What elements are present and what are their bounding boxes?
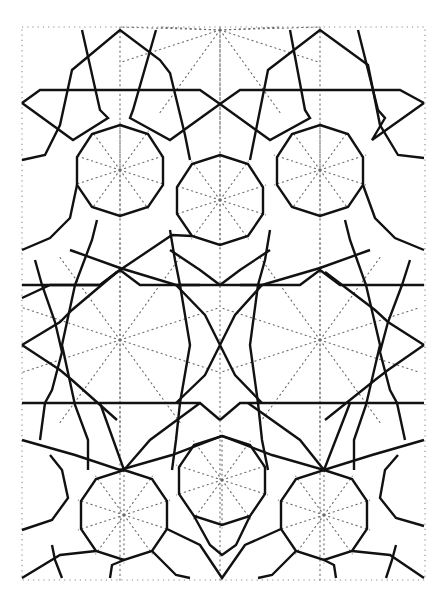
- mid-strand-vert-2: [170, 230, 190, 470]
- construction-ray: [74, 170, 120, 185]
- bottom-legs-2: [110, 560, 124, 578]
- construction-ray: [124, 515, 152, 554]
- construction-ray: [220, 185, 266, 200]
- mid-right-strand-1: [363, 185, 424, 250]
- construction-ray: [324, 500, 370, 515]
- construction-ray: [220, 30, 282, 115]
- mid-band: [22, 270, 200, 285]
- mid-left-strand-1: [22, 185, 77, 250]
- top-band-left: [22, 90, 220, 104]
- construction-lines: [22, 27, 420, 580]
- construction-ray: [220, 340, 320, 372]
- construction-ray: [320, 255, 382, 340]
- top-band-right: [220, 90, 424, 104]
- bottom-legs-4: [386, 545, 396, 578]
- construction-ray: [320, 308, 420, 340]
- construction-ray: [176, 465, 222, 480]
- construction-ray: [92, 131, 120, 170]
- construction-ray: [120, 170, 148, 209]
- top-arch-right: [250, 30, 424, 160]
- construction-ray: [258, 255, 320, 340]
- construction-ray: [78, 515, 124, 530]
- construction-ray: [120, 340, 182, 425]
- construction-ray: [192, 200, 220, 239]
- construction-ray: [220, 200, 248, 239]
- construction-ray: [278, 500, 324, 515]
- top-arch-left: [22, 30, 190, 160]
- construction-ray: [278, 515, 324, 530]
- construction-ray: [222, 441, 250, 480]
- construction-ray: [192, 161, 220, 200]
- construction-ray: [222, 465, 268, 480]
- construction-ray: [258, 340, 320, 425]
- construction-ray: [220, 30, 320, 62]
- construction-ray: [120, 340, 220, 372]
- strand-c: [358, 30, 424, 140]
- construction-ray: [124, 476, 152, 515]
- construction-ray: [96, 476, 124, 515]
- construction-ray: [96, 515, 124, 554]
- bottom-mid-left: [152, 551, 190, 578]
- construction-ray: [220, 161, 248, 200]
- construction-ray: [320, 340, 420, 372]
- mid-cross-right: [170, 250, 370, 285]
- construction-ray: [220, 200, 266, 215]
- lower-cross-left: [22, 436, 424, 470]
- mid-right-star-b: [325, 345, 424, 420]
- construction-ray: [58, 255, 120, 340]
- construction-ray: [222, 480, 268, 495]
- bottom-left-strand: [22, 551, 96, 578]
- strand-a: [22, 30, 108, 140]
- mid-left-star-a: [22, 235, 192, 298]
- construction-ray: [292, 170, 320, 209]
- construction-ray: [176, 480, 222, 495]
- construction-ray: [120, 170, 166, 185]
- construction-ray: [222, 480, 250, 519]
- construction-ray: [292, 131, 320, 170]
- construction-ray: [324, 515, 352, 554]
- construction-ray: [324, 515, 370, 530]
- bottom-right-star: [380, 455, 424, 526]
- bottom-mid-right: [258, 551, 296, 578]
- construction-ray: [296, 515, 324, 554]
- construction-ray: [58, 340, 120, 425]
- construction-ray: [120, 255, 182, 340]
- construction-ray: [220, 27, 320, 30]
- strapwork-lines: [22, 30, 424, 578]
- mid-right-star-a: [325, 272, 424, 345]
- bottom-left-star: [22, 455, 68, 530]
- construction-ray: [174, 185, 220, 200]
- mid-right-strand-2: [380, 260, 410, 440]
- construction-ray: [120, 30, 220, 62]
- construction-ray: [274, 155, 320, 170]
- mid-cross-left: [70, 250, 270, 285]
- construction-ray: [74, 155, 120, 170]
- construction-ray: [320, 170, 348, 209]
- construction-ray: [120, 308, 220, 340]
- construction-ray: [320, 170, 366, 185]
- construction-ray: [296, 476, 324, 515]
- construction-ray: [320, 155, 366, 170]
- construction-ray: [120, 131, 148, 170]
- pattern-figure: [0, 0, 447, 605]
- construction-ray: [324, 476, 352, 515]
- construction-ray: [194, 480, 222, 519]
- construction-ray: [124, 515, 170, 530]
- bottom-legs-3: [324, 560, 336, 578]
- construction-ray: [274, 170, 320, 185]
- construction-ray: [92, 170, 120, 209]
- construction-ray: [158, 30, 220, 115]
- construction-ray: [120, 155, 166, 170]
- mid-right-vert-2: [250, 230, 270, 470]
- construction-ray: [78, 500, 124, 515]
- bottom-legs-1: [52, 545, 62, 578]
- construction-ray: [124, 500, 170, 515]
- construction-ray: [174, 200, 220, 215]
- construction-ray: [194, 441, 222, 480]
- construction-ray: [320, 131, 348, 170]
- construction-ray: [22, 340, 120, 372]
- construction-ray: [220, 308, 320, 340]
